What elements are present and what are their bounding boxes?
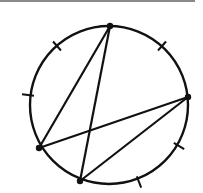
chord-CB — [39, 97, 188, 148]
chord-AC — [39, 26, 110, 148]
point-C — [36, 145, 42, 151]
chord-AD — [80, 26, 110, 181]
circle-chord-diagram — [0, 0, 203, 193]
chord-DB — [80, 97, 188, 181]
tick-mark-3 — [22, 94, 34, 95]
point-D — [77, 178, 83, 184]
point-A — [107, 23, 113, 29]
point-B — [185, 94, 191, 100]
